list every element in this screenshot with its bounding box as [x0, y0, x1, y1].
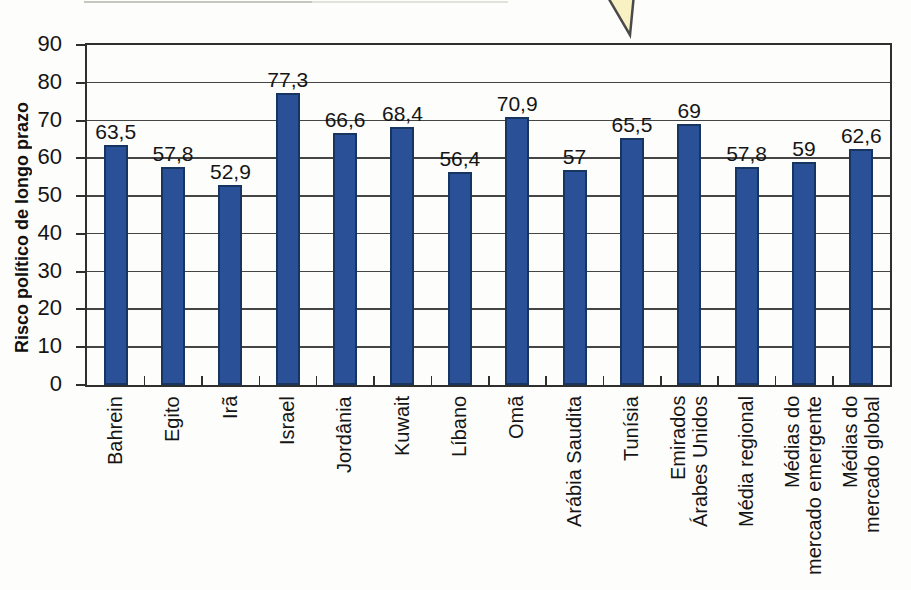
bar-value-label: 62,6 — [841, 125, 882, 146]
bar — [390, 127, 414, 385]
x-axis-labels: BahreinEgitoIrãIsraelJordâniaKuwaitLíban… — [87, 396, 890, 586]
x-tick — [775, 376, 777, 385]
bar — [276, 93, 300, 385]
gridline — [87, 82, 890, 84]
x-tick — [545, 376, 547, 385]
y-tick-label: 50 — [2, 184, 62, 206]
bar-value-label: 57,8 — [726, 143, 767, 164]
y-tick — [76, 44, 85, 46]
bar — [677, 124, 701, 385]
y-tick — [76, 82, 85, 84]
y-tick-label: 20 — [2, 297, 62, 319]
gridline — [87, 308, 890, 310]
y-tick — [76, 384, 85, 386]
cropped-box-remnant — [84, 1, 312, 3]
y-tick-label: 60 — [2, 146, 62, 168]
category-label-cell: Omã — [489, 396, 546, 586]
y-tick — [76, 120, 85, 122]
category-label-cell: Bahrein — [87, 396, 144, 586]
x-tick — [316, 376, 318, 385]
bar-value-label: 57 — [563, 146, 586, 167]
y-tick-label: 10 — [2, 335, 62, 357]
y-tick — [76, 233, 85, 235]
category-label: Média regional — [736, 396, 758, 586]
y-tick — [76, 195, 85, 197]
category-label: Irã — [220, 396, 242, 586]
x-tick — [717, 376, 719, 385]
category-label-cell: Emirados Árabes Unidos — [661, 396, 718, 586]
category-label-cell: Média regional — [718, 396, 775, 586]
bar — [333, 133, 357, 385]
category-label: Egito — [162, 396, 184, 586]
category-label-cell: Kuwait — [374, 396, 431, 586]
bar-value-label: 77,3 — [267, 69, 308, 90]
category-label: Omã — [506, 396, 528, 586]
bar-value-label: 66,6 — [325, 109, 366, 130]
category-label-cell: Líbano — [431, 396, 488, 586]
category-label: Arábia Saudita — [564, 396, 586, 586]
category-label-cell: Jordânia — [316, 396, 373, 586]
category-label-cell: Médias do mercado emergente — [775, 396, 832, 586]
bar — [620, 138, 644, 385]
category-label: Médias do mercado global — [840, 396, 883, 586]
plot-area: 63,557,852,977,366,668,456,470,95765,569… — [85, 43, 892, 387]
gridline — [87, 271, 890, 273]
gridline — [87, 157, 890, 159]
category-label: Emirados Árabes Unidos — [668, 396, 711, 586]
y-tick-label: 30 — [2, 260, 62, 282]
bar — [104, 145, 128, 385]
category-label-cell: Tunísia — [603, 396, 660, 586]
y-tick — [76, 346, 85, 348]
x-tick — [201, 376, 203, 385]
category-label-cell: Arábia Saudita — [546, 396, 603, 586]
bar-value-label: 57,8 — [153, 143, 194, 164]
gridline — [87, 195, 890, 197]
bar — [735, 167, 759, 385]
bar — [849, 149, 873, 385]
y-tick — [76, 308, 85, 310]
y-tick — [76, 271, 85, 273]
y-tick-label: 90 — [2, 33, 62, 55]
x-tick — [259, 376, 261, 385]
category-label: Kuwait — [392, 396, 414, 586]
x-tick — [373, 376, 375, 385]
x-tick — [488, 376, 490, 385]
x-tick — [832, 376, 834, 385]
bar-value-label: 59 — [792, 138, 815, 159]
bar — [448, 172, 472, 385]
cropped-box-remnant — [312, 1, 508, 3]
bar-value-label: 69 — [678, 100, 701, 121]
category-label: Israel — [277, 396, 299, 586]
gridline — [87, 346, 890, 348]
gridline — [87, 233, 890, 235]
category-label-cell: Egito — [144, 396, 201, 586]
category-label-cell: Médias do mercado global — [833, 396, 890, 586]
category-label-cell: Israel — [259, 396, 316, 586]
bar — [792, 162, 816, 385]
y-tick-label: 80 — [2, 71, 62, 93]
y-tick-label: 40 — [2, 222, 62, 244]
y-axis-labels: 0102030405060708090 — [0, 45, 76, 385]
bar — [218, 185, 242, 385]
callout-arrow-icon — [596, 0, 644, 42]
category-label: Jordânia — [334, 396, 356, 586]
bar-value-label: 70,9 — [497, 93, 538, 114]
category-label: Líbano — [449, 396, 471, 586]
x-tick — [144, 376, 146, 385]
figure-scan: Risco político de longo prazo 0102030405… — [0, 0, 911, 590]
category-label: Médias do mercado emergente — [782, 396, 825, 586]
bar-value-label: 68,4 — [382, 103, 423, 124]
category-label: Bahrein — [105, 396, 127, 586]
bar-value-label: 52,9 — [210, 161, 251, 182]
bar-value-label: 56,4 — [439, 148, 480, 169]
bar — [161, 167, 185, 385]
x-tick — [431, 376, 433, 385]
y-tick-label: 70 — [2, 109, 62, 131]
x-tick — [603, 376, 605, 385]
bar-value-label: 65,5 — [611, 114, 652, 135]
y-tick-label: 0 — [2, 373, 62, 395]
category-label-cell: Irã — [202, 396, 259, 586]
y-tick — [76, 157, 85, 159]
x-tick — [660, 376, 662, 385]
bar — [505, 117, 529, 385]
